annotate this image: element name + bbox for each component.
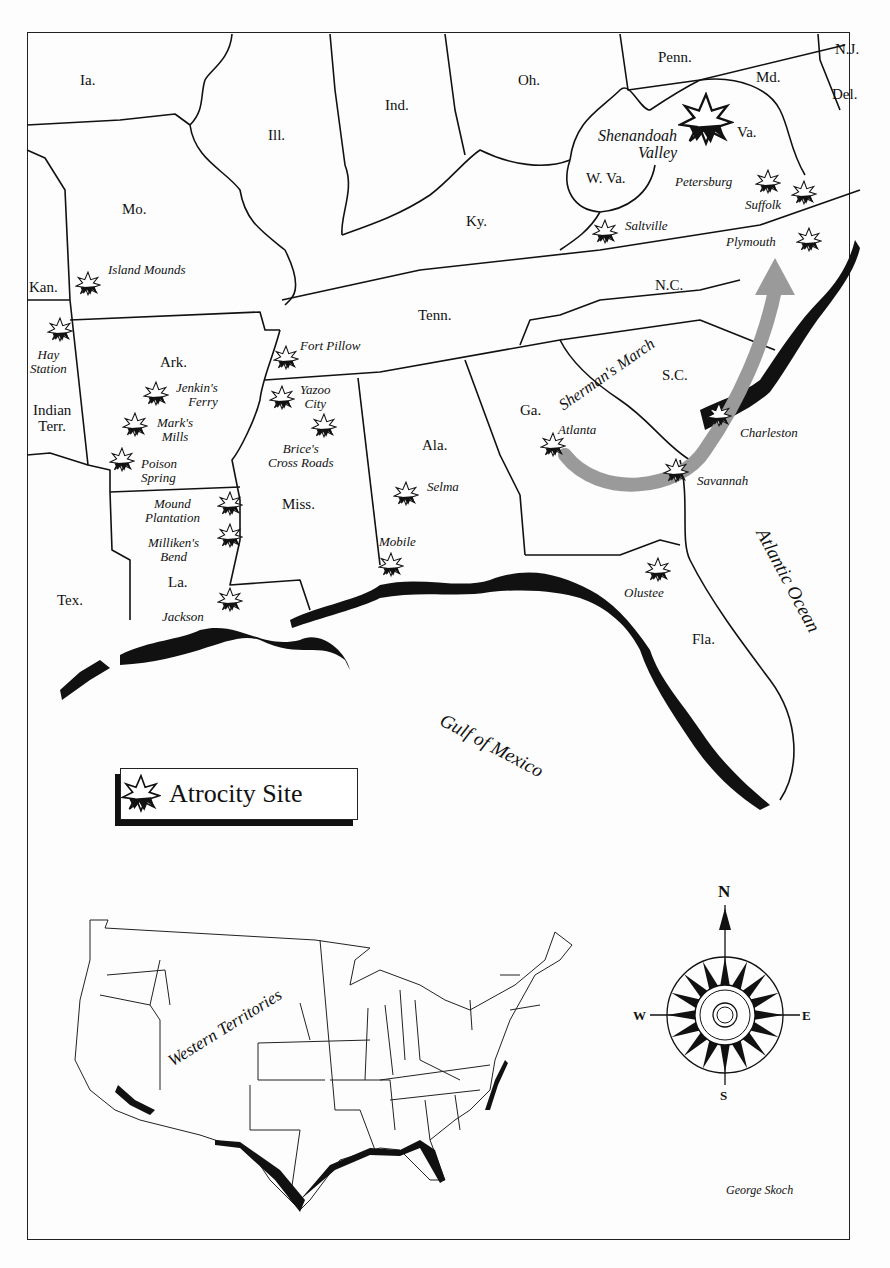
site-label-island-mounds[interactable]: Island Mounds — [108, 263, 186, 277]
state-label-ky: Ky. — [466, 214, 487, 230]
legend-label: Atrocity Site — [169, 779, 303, 809]
site-label-mound-plantation[interactable]: Mound Plantation — [145, 497, 200, 524]
site-label-brices-cross-roads[interactable]: Brice's Cross Roads — [268, 442, 334, 469]
state-label-del: Del. — [832, 87, 857, 103]
state-label-la: La. — [168, 575, 188, 591]
state-label-ala: Ala. — [422, 438, 447, 454]
starburst-icon[interactable] — [311, 413, 337, 439]
state-label-penn: Penn. — [658, 50, 692, 66]
site-label-jackson[interactable]: Jackson — [162, 610, 204, 624]
site-label-hay-station[interactable]: Hay Station — [30, 348, 67, 375]
starburst-icon[interactable] — [755, 169, 781, 195]
starburst-icon[interactable] — [143, 381, 169, 407]
starburst-icon[interactable] — [269, 385, 295, 411]
starburst-icon[interactable] — [217, 523, 243, 549]
starburst-icon — [121, 774, 161, 814]
legend: Atrocity Site — [120, 768, 358, 820]
starburst-icon[interactable] — [592, 219, 618, 245]
state-label-ark: Ark. — [160, 355, 187, 371]
starburst-icon[interactable] — [378, 552, 404, 578]
compass-south-label: S — [720, 1088, 727, 1104]
starburst-icon[interactable] — [273, 345, 299, 371]
starburst-icon[interactable] — [109, 447, 135, 473]
state-label-md: Md. — [756, 70, 781, 86]
site-label-olustee[interactable]: Olustee — [624, 586, 664, 600]
state-label-ia: Ia. — [80, 73, 95, 89]
site-label-saltville[interactable]: Saltville — [625, 219, 668, 233]
compass-north-label: N — [718, 882, 730, 902]
starburst-icon[interactable] — [663, 458, 689, 484]
starburst-icon[interactable] — [47, 317, 73, 343]
starburst-icon[interactable] — [122, 412, 148, 438]
starburst-icon[interactable] — [796, 227, 822, 253]
starburst-icon[interactable] — [75, 271, 101, 297]
starburst-icon[interactable] — [706, 402, 732, 428]
site-label-mobile[interactable]: Mobile — [379, 535, 416, 549]
site-label-petersburg[interactable]: Petersburg — [675, 175, 732, 189]
site-label-yazoo-city[interactable]: Yazoo City — [300, 383, 331, 410]
starburst-icon[interactable] — [217, 587, 243, 613]
starburst-icon[interactable] — [393, 481, 419, 507]
state-label-nc: N.C. — [655, 278, 683, 294]
site-label-plymouth[interactable]: Plymouth — [726, 235, 776, 249]
site-label-savannah[interactable]: Savannah — [697, 474, 748, 488]
starburst-icon[interactable] — [791, 180, 817, 206]
compass-east-label: E — [802, 1008, 811, 1024]
state-label-va: Va. — [737, 125, 757, 141]
starburst-icon[interactable] — [645, 557, 671, 583]
state-label-tenn: Tenn. — [418, 308, 452, 324]
state-label-sc: S.C. — [662, 368, 688, 384]
state-label-kan: Kan. — [29, 280, 58, 296]
site-label-selma[interactable]: Selma — [427, 480, 459, 494]
site-label-marks-mills[interactable]: Mark's Mills — [157, 416, 193, 443]
site-label-charleston[interactable]: Charleston — [740, 426, 798, 440]
site-label-atlanta[interactable]: Atlanta — [558, 423, 596, 437]
state-label-indian-terr: Indian Terr. — [33, 403, 71, 435]
site-label-millikens-bend[interactable]: Milliken's Bend — [148, 536, 199, 563]
site-label-poison-spring[interactable]: Poison Spring — [141, 457, 177, 484]
site-label-suffolk[interactable]: Suffolk — [745, 198, 781, 212]
state-label-fla: Fla. — [692, 632, 715, 648]
state-label-ill: Ill. — [268, 128, 285, 144]
state-label-oh: Oh. — [518, 73, 540, 89]
state-label-nj: N.J. — [835, 42, 859, 58]
site-label-jenkins-ferry[interactable]: Jenkin's Ferry — [176, 381, 218, 408]
state-label-miss: Miss. — [282, 497, 315, 513]
compass-west-label: W — [633, 1008, 646, 1024]
state-label-wva: W. Va. — [586, 171, 626, 187]
site-label-fort-pillow[interactable]: Fort Pillow — [300, 339, 360, 353]
credit-label: George Skoch — [726, 1183, 793, 1198]
state-label-ind: Ind. — [385, 98, 409, 114]
starburst-icon[interactable] — [678, 92, 734, 148]
state-label-mo: Mo. — [122, 202, 147, 218]
site-label-shenandoah[interactable]: Shenandoah Valley — [598, 128, 677, 162]
starburst-icon[interactable] — [217, 491, 243, 517]
state-label-tex: Tex. — [57, 593, 83, 609]
state-label-ga: Ga. — [520, 403, 541, 419]
